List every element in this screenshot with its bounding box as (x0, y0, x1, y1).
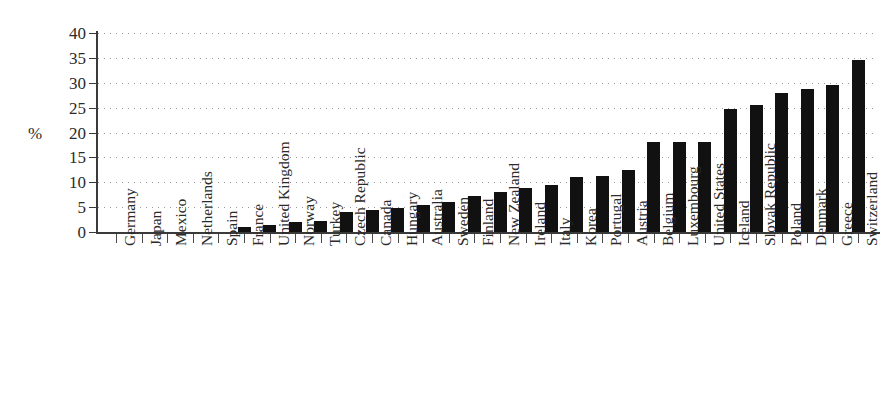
x-tick-mark (782, 234, 783, 243)
x-tick-mark (654, 234, 655, 243)
x-tick-mark (807, 234, 808, 243)
x-category-label: United Kingdom (276, 141, 292, 246)
x-category-label: Germany (122, 188, 138, 246)
y-tick-mark (89, 207, 96, 208)
x-tick-mark (372, 234, 373, 243)
x-category-label: Belgium (660, 193, 676, 246)
x-tick-mark (500, 234, 501, 243)
y-tick-mark (89, 108, 96, 109)
x-tick-mark (295, 234, 296, 243)
x-tick-mark (730, 234, 731, 243)
y-axis-tick-labels: 0510152025303540 (52, 0, 86, 411)
x-category-label: Czech Republic (352, 147, 368, 246)
y-tick-mark (89, 133, 96, 134)
y-tick-label: 15 (52, 149, 86, 166)
y-tick-mark (89, 232, 96, 233)
x-category-label: Mexico (173, 199, 189, 246)
x-category-label: Australia (429, 189, 445, 246)
x-tick-mark (167, 234, 168, 243)
x-category-label: Korea (583, 208, 599, 246)
gridline (98, 33, 878, 34)
x-category-label: France (250, 204, 266, 246)
x-tick-mark (142, 234, 143, 243)
x-tick-mark (602, 234, 603, 243)
y-tick-label: 5 (52, 199, 86, 216)
x-tick-mark (423, 234, 424, 243)
y-tick-mark (89, 157, 96, 158)
x-tick-mark (628, 234, 629, 243)
x-tick-mark (193, 234, 194, 243)
x-tick-mark (526, 234, 527, 243)
y-tick-mark (89, 182, 96, 183)
x-tick-mark (858, 234, 859, 243)
x-category-label: Switzerland (864, 172, 880, 246)
x-category-label: Slovak Republic (762, 143, 778, 246)
x-tick-mark (833, 234, 834, 243)
y-axis-unit-label: % (28, 125, 42, 142)
x-category-label: United States (711, 163, 727, 246)
y-tick-label: 35 (52, 50, 86, 67)
y-tick-mark (89, 33, 96, 34)
x-tick-mark (756, 234, 757, 243)
x-category-label: Austria (634, 200, 650, 246)
x-category-label: Iceland (736, 200, 752, 246)
y-tick-label: 0 (52, 224, 86, 241)
y-tick-label: 20 (52, 125, 86, 142)
x-category-label: New Zealand (506, 163, 522, 246)
x-category-label: Ireland (532, 202, 548, 246)
x-tick-mark (551, 234, 552, 243)
x-tick-mark (218, 234, 219, 243)
x-category-label: Japan (148, 211, 164, 246)
x-tick-mark (116, 234, 117, 243)
x-category-label: Spain (224, 211, 240, 246)
x-tick-mark (705, 234, 706, 243)
y-tick-label: 25 (52, 100, 86, 117)
x-tick-mark (270, 234, 271, 243)
x-category-label: Poland (788, 203, 804, 246)
gridline (98, 83, 878, 84)
x-category-label: Luxembourg (685, 166, 701, 246)
x-category-label: Greece (839, 202, 855, 246)
x-tick-mark (577, 234, 578, 243)
bar-chart: % 0510152025303540 GermanyJapanMexicoNet… (0, 0, 892, 411)
x-category-label: Norway (301, 196, 317, 246)
x-category-label: Sweden (455, 197, 471, 246)
x-category-label: Netherlands (199, 171, 215, 246)
x-category-label: Hungary (404, 192, 420, 246)
x-category-label: Denmark (813, 188, 829, 246)
y-tick-label: 10 (52, 174, 86, 191)
y-tick-mark (89, 58, 96, 59)
x-category-label: Canada (378, 200, 394, 246)
x-tick-mark (679, 234, 680, 243)
x-tick-mark (398, 234, 399, 243)
x-tick-mark (346, 234, 347, 243)
y-tick-label: 30 (52, 75, 86, 92)
x-category-label: Portugal (608, 193, 624, 246)
y-tick-label: 40 (52, 25, 86, 42)
x-category-label: Finland (480, 199, 496, 246)
y-tick-mark (89, 83, 96, 84)
x-tick-mark (449, 234, 450, 243)
x-tick-mark (321, 234, 322, 243)
x-category-label: Turkey (327, 202, 343, 246)
x-tick-mark (474, 234, 475, 243)
x-category-label: Italy (557, 218, 573, 246)
x-tick-mark (244, 234, 245, 243)
gridline (98, 58, 878, 59)
